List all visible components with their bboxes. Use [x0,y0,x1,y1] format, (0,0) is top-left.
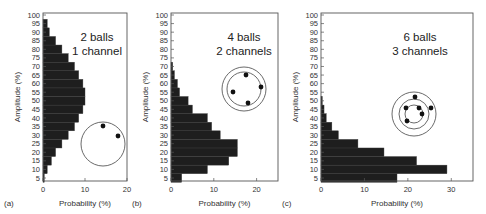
y-tick-label: 50 [160,96,168,105]
ball-ring-diagram [392,92,436,136]
bar [43,79,83,88]
x-tick-label: 20 [123,185,131,194]
panel-title: 2 balls [80,31,113,43]
ball-dot [231,90,236,95]
y-tick-label: 15 [160,156,168,165]
y-tick-label: 25 [160,139,168,148]
y-tick-label: 40 [310,114,318,123]
panel-title: 3 channels [392,45,448,57]
y-tick-label: 55 [160,88,168,97]
ball-dot [244,73,249,78]
y-tick-label: 70 [310,62,318,71]
bar [171,157,229,166]
y-tick-label: 55 [310,88,318,97]
x-tick-label: 10 [360,185,368,194]
y-tick-label: 80 [310,45,318,54]
ball-dot [417,106,422,111]
bar [321,157,417,166]
bar [43,62,75,71]
bar [171,105,192,114]
y-tick-label: 90 [160,28,168,37]
y-tick-label: 90 [310,28,318,37]
y-tick-label: 90 [32,28,40,37]
y-tick-label: 10 [32,165,40,174]
ring-circle [399,99,429,129]
x-tick-label: 10 [210,185,218,194]
chart-panel-c: 5101520253035404550556065707580859095100… [282,11,473,208]
y-tick-label: 60 [310,79,318,88]
ball-dot [405,119,410,124]
y-tick-label: 70 [160,62,168,71]
y-tick-label: 95 [310,19,318,28]
y-tick-label: 45 [310,105,318,114]
bar [43,122,75,131]
y-tick-label: 65 [160,71,168,80]
panel-label: (b) [132,199,142,208]
y-tick-label: 40 [32,114,40,123]
ball-dot [404,106,409,111]
y-axis-label: Amplitude (%) [291,72,300,123]
chart-panel-b: 5101520253035404550556065707580859095100… [132,11,278,208]
bar [171,139,237,148]
bar [321,139,358,148]
x-tick-label: 20 [252,185,260,194]
ball-dot [259,85,264,90]
x-axis-label: Probability (%) [198,199,250,208]
x-tick-label: 20 [404,185,412,194]
panel-title: 2 channels [216,45,272,57]
y-tick-label: 95 [160,19,168,28]
ball-dot [420,112,425,117]
y-tick-label: 35 [32,122,40,131]
y-tick-label: 85 [32,36,40,45]
bar [171,131,220,140]
y-tick-label: 80 [32,45,40,54]
y-tick-label: 20 [310,148,318,157]
x-tick-label: 0 [169,185,173,194]
bar [171,114,207,123]
y-axis-label: Amplitude (%) [141,72,150,123]
y-tick-label: 30 [160,131,168,140]
bar [43,131,68,140]
y-tick-label: 85 [310,36,318,45]
y-tick-label: 65 [32,71,40,80]
figure: 5101520253035404550556065707580859095100… [0,0,486,214]
y-tick-label: 45 [32,105,40,114]
y-tick-label: 100 [27,11,40,20]
y-tick-label: 45 [160,105,168,114]
y-tick-label: 55 [32,88,40,97]
ball-dot [246,101,251,106]
y-tick-label: 10 [160,165,168,174]
bar [43,88,85,97]
y-tick-label: 20 [32,148,40,157]
ball-dot [413,95,418,100]
bar [321,148,384,157]
y-tick-label: 80 [160,45,168,54]
bar [43,97,85,106]
bar [43,105,83,114]
panel-label: (a) [4,199,14,208]
y-tick-label: 75 [32,53,40,62]
y-tick-label: 75 [310,53,318,62]
y-axis-label: Amplitude (%) [13,72,22,123]
bar [43,114,79,123]
y-tick-label: 35 [310,122,318,131]
panel-title: 1 channel [72,45,122,57]
y-tick-label: 15 [310,156,318,165]
ball-dot [116,134,121,139]
y-tick-label: 40 [160,114,168,123]
y-tick-label: 30 [32,131,40,140]
y-tick-label: 95 [32,19,40,28]
y-tick-label: 15 [32,156,40,165]
bar [321,165,447,174]
y-tick-label: 35 [160,122,168,131]
y-tick-label: 5 [36,174,40,183]
x-tick-label: 0 [319,185,323,194]
ball-ring-diagram [222,67,266,111]
y-tick-label: 100 [155,11,168,20]
y-tick-label: 5 [314,174,318,183]
y-tick-label: 60 [160,79,168,88]
ring-circle [81,122,125,166]
panel-title: 6 balls [403,31,436,43]
y-tick-label: 30 [310,131,318,140]
panel-title: 4 balls [227,31,260,43]
